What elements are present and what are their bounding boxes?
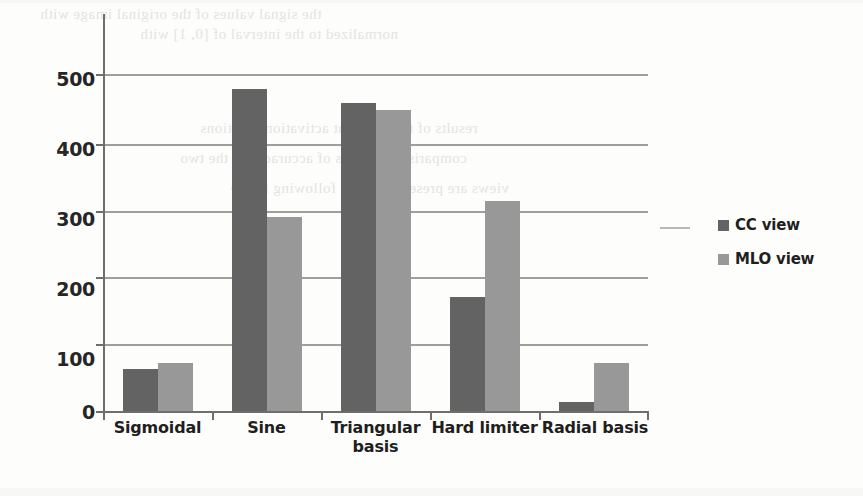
y-tick-mark-100 [96,344,105,346]
legend-swatch-cc-view-icon [718,220,729,231]
x-category-label-triangular-basis-line2: basis [321,437,430,456]
bar-mlo-sigmoidal [158,363,193,411]
y-tick-label-400: 400 [43,138,95,160]
x-category-label-triangular-basis: Triangular basis [321,418,430,456]
legend-swatch-mlo-view-icon [718,254,729,265]
x-category-label-radial-basis-line1: Radial basis [539,418,651,437]
y-tick-label-500: 500 [43,68,95,90]
chart-legend: CC view MLO view [718,208,848,276]
x-category-label-hard-limiter-line1: Hard limiter [430,418,539,437]
legend-item-mlo-view: MLO view [718,242,848,276]
scanned-page-background: the signal values of the original image … [0,0,863,496]
y-tick-label-100: 100 [43,348,95,370]
bar-mlo-triangular-basis [376,110,411,411]
y-tick-mark-400 [96,144,105,146]
bar-cc-sine [232,89,267,411]
y-tick-label-200: 200 [43,278,95,300]
x-category-label-triangular-basis-line1: Triangular [321,418,430,437]
legend-label-mlo-view: MLO view [735,250,814,268]
gridline-500 [103,74,648,76]
scan-noise-band-bottom [0,488,863,496]
y-tick-label-0: 0 [43,401,95,423]
legend-label-cc-view: CC view [735,216,800,234]
x-category-label-hard-limiter: Hard limiter [430,418,539,437]
bar-mlo-sine [267,217,302,411]
x-axis-line [99,411,648,413]
y-tick-mark-200 [96,277,105,279]
y-axis-tick-labels: 500 400 300 200 100 0 [35,62,95,413]
x-category-label-sigmoidal-line1: Sigmoidal [103,418,212,437]
bar-cc-hard-limiter [450,297,485,411]
bar-cc-triangular-basis [341,103,376,411]
x-axis-category-labels: Sigmoidal Sine Triangular basis Hard lim… [103,418,648,478]
x-category-label-sine-line1: Sine [212,418,321,437]
x-category-label-sine: Sine [212,418,321,437]
bar-cc-radial-basis [559,402,594,411]
x-category-label-radial-basis: Radial basis [539,418,651,437]
y-tick-mark-500 [96,74,105,76]
plot-area [103,62,648,413]
scan-bleed-line-1: the signal values of the original image … [40,6,322,23]
bar-cc-sigmoidal [123,369,158,411]
legend-leader-line [660,227,690,229]
bar-mlo-radial-basis [594,363,629,411]
legend-item-cc-view: CC view [718,208,848,242]
y-tick-mark-300 [96,211,105,213]
scan-bleed-line-2: normalized to the interval of [0, 1] wit… [140,26,398,43]
y-tick-label-300: 300 [43,208,95,230]
scan-noise-band-top [0,0,863,3]
x-category-label-sigmoidal: Sigmoidal [103,418,212,437]
bar-mlo-hard-limiter [485,201,520,411]
